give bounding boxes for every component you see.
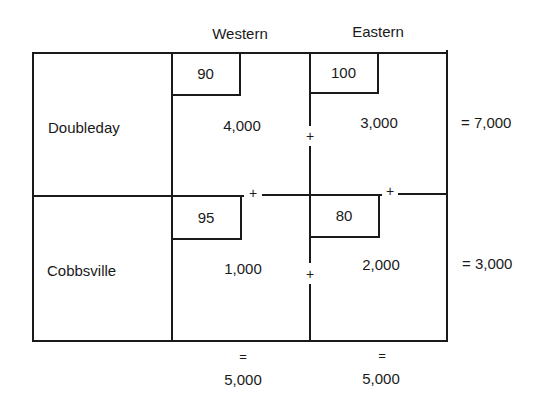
cost-value: 90 xyxy=(197,65,214,82)
cost-value: 80 xyxy=(336,207,353,224)
row-divider-seg3 xyxy=(398,193,448,195)
row-total-doubleday: = 7,000 xyxy=(461,115,511,130)
column-total-equals-western: = xyxy=(239,350,247,363)
cost-value: 100 xyxy=(331,64,356,81)
column-total-eastern: 5,000 xyxy=(362,371,400,386)
column-total-western: 5,000 xyxy=(224,372,262,387)
plus-marker: + xyxy=(304,129,316,143)
column-divider-seg3 xyxy=(309,284,311,340)
cost-box: 100 xyxy=(310,52,379,94)
grid-left-border xyxy=(32,52,34,342)
column-header-eastern: Eastern xyxy=(352,24,404,39)
column-total-equals-eastern: = xyxy=(378,349,386,362)
cost-box: 90 xyxy=(172,53,241,96)
cost-value: 95 xyxy=(198,209,215,226)
plus-marker: + xyxy=(384,184,396,198)
cost-box: 80 xyxy=(310,195,380,238)
grid-right-border xyxy=(446,50,448,340)
row-total-cobbsville: = 3,000 xyxy=(462,256,512,271)
plus-marker: + xyxy=(304,267,316,281)
allocation-value: 2,000 xyxy=(362,257,400,272)
cost-box: 95 xyxy=(172,196,242,240)
plus-marker: + xyxy=(247,186,259,200)
row-label-cobbsville: Cobbsville xyxy=(47,263,116,278)
allocation-value: 3,000 xyxy=(360,115,398,130)
row-label-doubleday: Doubleday xyxy=(48,120,120,135)
allocation-value: 4,000 xyxy=(223,118,261,133)
column-header-western: Western xyxy=(212,26,268,41)
allocation-value: 1,000 xyxy=(224,261,262,276)
grid-bottom-border xyxy=(32,340,448,342)
